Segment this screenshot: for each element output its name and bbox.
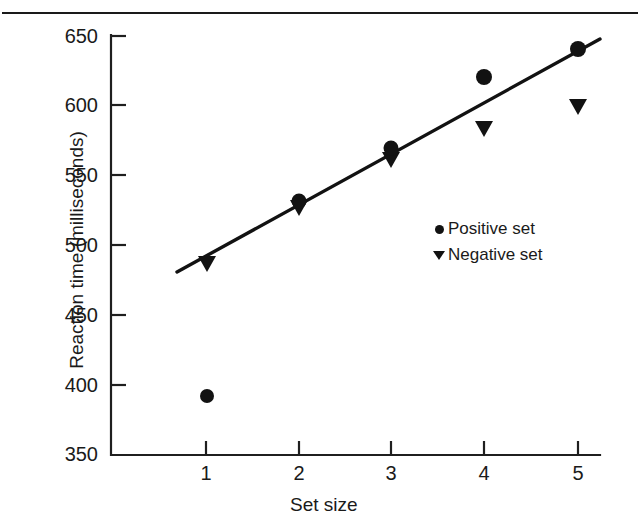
x-axis-label: Set size — [290, 495, 358, 515]
chart-legend: Positive set Negative set — [430, 216, 600, 268]
x-tick-label-3: 3 — [379, 463, 403, 483]
figure-page: 650 600 550 500 450 400 350 1 2 3 4 5 Re… — [0, 0, 640, 529]
x-tick-label-5: 5 — [566, 463, 590, 483]
x-axis-ticks — [206, 441, 578, 455]
x-tick-label-1: 1 — [194, 463, 218, 483]
legend-label-positive-set: Positive set — [448, 220, 535, 238]
legend-label-negative-set: Negative set — [448, 246, 543, 264]
cut-off-caption-text — [6, 521, 426, 529]
legend-item-positive-set: Positive set — [430, 216, 600, 242]
filled-circle-icon — [430, 225, 448, 234]
legend-item-negative-set: Negative set — [430, 242, 600, 268]
x-tick-label-2: 2 — [287, 463, 311, 483]
y-axis-label: Reaction time (milliseconds) — [67, 110, 87, 390]
x-tick-label-4: 4 — [472, 463, 496, 483]
y-tick-label-650: 650 — [42, 26, 98, 46]
scatter-plot: 650 600 550 500 450 400 350 1 2 3 4 5 Re… — [0, 0, 640, 500]
y-tick-label-350: 350 — [42, 444, 98, 464]
y-axis-ticks — [111, 36, 126, 385]
filled-triangle-down-icon — [430, 251, 448, 260]
